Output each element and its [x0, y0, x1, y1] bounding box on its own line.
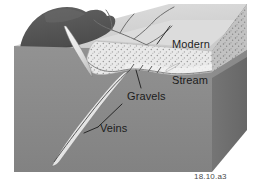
figure-block-diagram: Modern Stream Gravels Veins 18.10.a3	[0, 0, 253, 190]
label-modern-stream-line2: Stream	[172, 74, 210, 86]
label-veins: Veins	[100, 122, 127, 134]
label-modern-stream-line1: Modern	[172, 38, 210, 50]
label-gravels: Gravels	[127, 90, 166, 102]
label-modern-stream: Modern Stream	[172, 14, 210, 110]
figure-caption-id: 18.10.a3	[194, 172, 227, 182]
